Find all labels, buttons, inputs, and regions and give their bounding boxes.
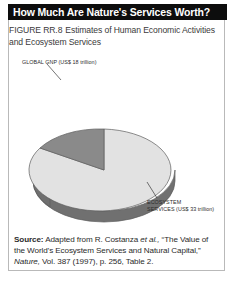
callout-global-gnp: GLOBAL GNP (US$ 18 trillion) [22,59,97,66]
figure-title-banner: How Much Are Nature's Services Worth? [8,4,227,20]
callout-ecosystem-services: ECOSYSTEM SERVICES (US$ 33 trillion) [147,199,214,213]
source-italic-etal: et al., [140,235,159,244]
callout-global-gnp-text: GLOBAL GNP (US$ 18 trillion) [22,59,97,65]
figure-number: FIGURE RR.8 [9,25,62,35]
source-italic-journal: Nature, [14,257,40,266]
source-part-3: Vol. 387 (1997), p. 256, Table 2. [42,257,153,266]
figure-container: How Much Are Nature's Services Worth? FI… [0,0,235,288]
page-title: How Much Are Nature's Services Worth? [8,6,210,18]
source-part-1: Adapted from R. Costanza [45,235,138,244]
callout-ecosystem-line1: ECOSYSTEM [147,199,214,206]
source-label: Source: [14,235,43,244]
leader-line-gnp [47,64,61,80]
source-note: Source: Adapted from R. Costanza et al.,… [14,234,218,267]
callout-ecosystem-line2: SERVICES (US$ 33 trillion) [147,206,214,213]
figure-caption: FIGURE RR.8Estimates of Human Economic A… [9,25,221,48]
